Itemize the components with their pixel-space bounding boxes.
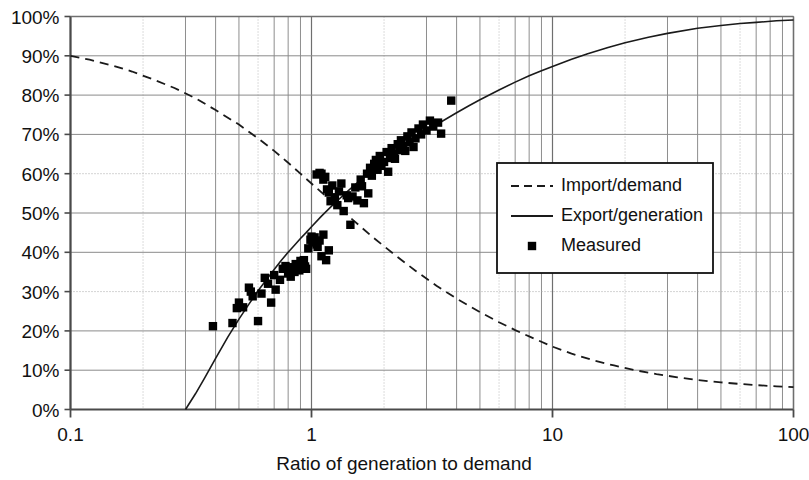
measured-point (254, 317, 262, 325)
measured-point (434, 118, 442, 126)
measured-point (364, 189, 372, 197)
y-axis-tick-label: 0% (32, 400, 60, 421)
measured-point (239, 303, 247, 311)
x-axis-ticks (71, 410, 794, 418)
x-axis-tick-labels: 0.1110100 (57, 424, 809, 445)
measured-point (401, 147, 409, 155)
measured-point (360, 199, 368, 207)
measured-point (302, 265, 310, 273)
measured-point (276, 276, 284, 284)
measured-point (391, 155, 399, 163)
y-axis-tick-label: 60% (21, 164, 59, 185)
chart-legend: Import/demandExport/generationMeasured (497, 163, 713, 273)
measured-point (281, 262, 289, 270)
y-axis-tick-label: 30% (21, 282, 59, 303)
measured-point (346, 221, 354, 229)
y-axis-tick-label: 50% (21, 203, 59, 224)
x-axis-tick-label: 10 (542, 424, 563, 445)
x-axis-tick-label: 1 (306, 424, 317, 445)
y-axis-tick-label: 20% (21, 321, 59, 342)
x-axis-title: Ratio of generation to demand (276, 453, 532, 474)
measured-point (319, 230, 327, 238)
y-axis-tick-label: 80% (21, 85, 59, 106)
measured-point (335, 187, 343, 195)
y-axis-tick-label: 40% (21, 242, 59, 263)
measured-point (271, 285, 279, 293)
legend-item-label: Import/demand (561, 175, 682, 195)
measured-point (384, 168, 392, 176)
y-axis-tick-label: 70% (21, 124, 59, 145)
legend-item-label: Measured (561, 235, 641, 255)
y-axis-tick-labels: 0%10%20%30%40%50%60%70%80%90%100% (11, 7, 60, 421)
measured-point (337, 179, 345, 187)
legend-item-label: Export/generation (561, 205, 703, 225)
chart-container: 0%10%20%30%40%50%60%70%80%90%100% 0.1110… (0, 0, 809, 480)
measured-point (257, 289, 265, 297)
measured-point (322, 256, 330, 264)
measured-point (264, 280, 272, 288)
measured-point (248, 292, 256, 300)
y-axis-tick-label: 90% (21, 46, 59, 67)
legend-swatch-square-marker (528, 242, 536, 250)
measured-point (437, 129, 445, 137)
measured-point (325, 246, 333, 254)
measured-point (228, 319, 236, 327)
x-axis-tick-label: 100 (778, 424, 809, 445)
y-axis-tick-label: 100% (11, 7, 60, 28)
measured-point (321, 173, 329, 181)
y-axis-tick-label: 10% (21, 360, 59, 381)
measured-point (339, 207, 347, 215)
measured-point (267, 298, 275, 306)
measured-point (447, 96, 455, 104)
measured-point (209, 322, 217, 330)
measured-point (409, 143, 417, 151)
chart-canvas: 0%10%20%30%40%50%60%70%80%90%100% 0.1110… (0, 0, 809, 480)
x-axis-tick-label: 0.1 (57, 424, 83, 445)
